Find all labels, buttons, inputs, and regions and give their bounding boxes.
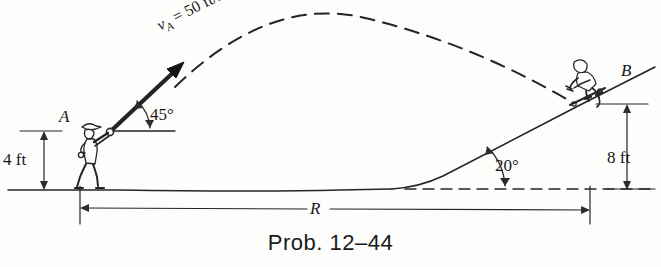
label-point-a: A	[59, 108, 69, 125]
skateboarder-figure	[566, 60, 605, 107]
dimension-range-r	[80, 186, 590, 224]
figure-caption: Prob. 12–44	[0, 232, 661, 254]
label-height-b: 8 ft	[607, 149, 630, 166]
label-point-b: B	[621, 62, 631, 79]
incline-surface	[392, 67, 655, 189]
dimension-height-b	[596, 104, 655, 190]
label-incline-angle: 20°	[495, 157, 519, 174]
dimension-height-a	[20, 131, 62, 190]
physics-problem-figure: A B 4 ft 8 ft 45° 20° R vA = 50 ft/sec P…	[0, 0, 661, 267]
ground-line	[8, 189, 392, 191]
launcher-person-figure	[75, 124, 109, 188]
figure-drawing	[0, 0, 661, 267]
trajectory-path	[175, 13, 568, 100]
label-height-a: 4 ft	[3, 151, 26, 168]
label-range: R	[310, 200, 320, 217]
label-launch-angle: 45°	[150, 106, 174, 123]
